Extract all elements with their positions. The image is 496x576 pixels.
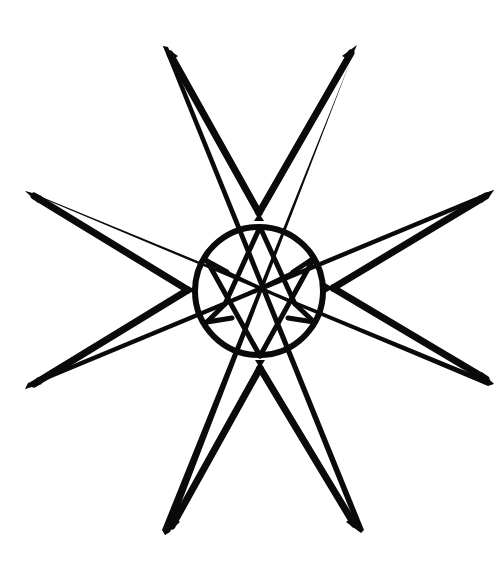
background: [0, 0, 496, 576]
sigil-figure: [0, 0, 496, 576]
sigil-svg: [0, 0, 496, 576]
